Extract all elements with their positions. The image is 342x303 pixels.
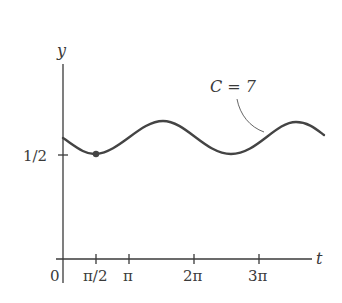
- x-tick-3pi-label: 3π: [248, 267, 268, 285]
- x-tick-pi-label: π: [123, 267, 133, 285]
- solution-curve: [63, 121, 324, 154]
- y-axis-label: y: [56, 41, 67, 60]
- x-tick-pi-half-label: π/2: [83, 267, 107, 285]
- x-axis-label: t: [316, 249, 323, 268]
- marked-point: [93, 151, 99, 157]
- curve-label: C = 7: [210, 77, 257, 96]
- y-tick-half-label: 1/2: [23, 147, 47, 165]
- x-tick-2pi-label: 2π: [183, 267, 203, 285]
- origin-label: 0: [50, 267, 60, 285]
- chart: y t 0 1/2 π/2 π 2π 3π C = 7: [0, 0, 342, 303]
- label-leader-line: [237, 99, 264, 132]
